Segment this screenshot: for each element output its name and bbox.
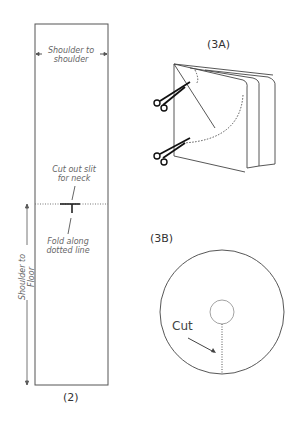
slit-label-line1: Cut out slit (42, 165, 106, 174)
figure-2-caption: (2) (63, 391, 79, 404)
cut-label: Cut (172, 319, 193, 333)
scissors-icon (154, 82, 190, 111)
figure-3a-caption: (3A) (207, 38, 230, 51)
width-label-line1: Shoulder to (42, 46, 100, 55)
figure-3b-caption: (3B) (150, 232, 173, 245)
height-label-line2: Floor (27, 247, 36, 307)
width-label-line2: shoulder (42, 55, 100, 64)
height-label: Shoulder to Floor (18, 247, 36, 307)
circle-pattern (160, 250, 284, 374)
slit-label: Cut out slit for neck (42, 165, 106, 183)
fold-label: Fold along dotted line (38, 237, 98, 255)
slit-label-line2: for neck (42, 174, 106, 183)
folded-fabric (174, 64, 275, 172)
width-label: Shoulder to shoulder (42, 46, 100, 64)
fabric-rectangle (26, 24, 109, 385)
scissors-icon (154, 138, 190, 165)
height-label-line1: Shoulder to (18, 247, 27, 307)
fold-label-line1: Fold along (38, 237, 98, 246)
fold-label-line2: dotted line (38, 246, 98, 255)
